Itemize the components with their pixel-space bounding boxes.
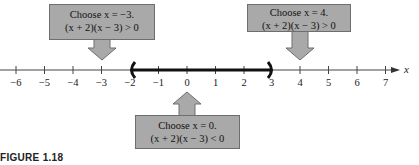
callout-right-line1: Choose x = 4. (248, 6, 350, 19)
callout-left: Choose x = −3. (x + 2)(x − 3) > 0 (49, 4, 155, 40)
tick-label: 6 (347, 77, 367, 88)
callout-middle-line1: Choose x = 0. (136, 119, 239, 132)
axis-variable-label: x (404, 63, 409, 75)
tick-label: 2 (234, 77, 254, 88)
tick-label: −1 (149, 77, 169, 88)
down-arrow-icon-left (88, 39, 116, 60)
callout-left-line2: (x + 2)(x − 3) > 0 (50, 21, 154, 34)
axis-arrow-icon (391, 67, 400, 73)
tick-label: 1 (206, 77, 226, 88)
tick-label: 4 (290, 77, 310, 88)
tick-label: −4 (63, 77, 83, 88)
tick-label: −6 (6, 77, 26, 88)
up-arrow-icon-middle (173, 92, 201, 116)
callout-left-line1: Choose x = −3. (50, 8, 154, 21)
tick-label: 0 (177, 77, 197, 88)
tick-label: 7 (376, 77, 396, 88)
callout-middle-line2: (x + 2)(x − 3) < 0 (136, 132, 239, 145)
figure-caption: FIGURE 1.18 (0, 152, 63, 163)
tick-label: −2 (120, 77, 140, 88)
down-arrow-icon-right (286, 31, 314, 60)
tick-label: 5 (319, 77, 339, 88)
tick-label: −3 (92, 77, 112, 88)
callout-middle: Choose x = 0. (x + 2)(x − 3) < 0 (135, 115, 240, 149)
callout-right: Choose x = 4. (x + 2)(x − 3) > 0 (247, 4, 351, 32)
callout-right-line2: (x + 2)(x − 3) > 0 (248, 19, 350, 32)
tick-label: 3 (262, 77, 282, 88)
tick-label: −5 (35, 77, 55, 88)
